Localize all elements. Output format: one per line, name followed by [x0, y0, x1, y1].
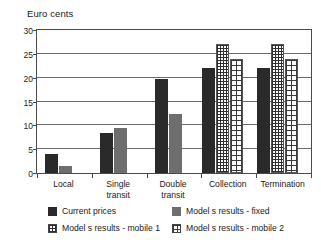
chart-legend: Current pricesModel s results - fixedMod…	[48, 206, 310, 240]
legend-swatch-current-icon	[48, 207, 57, 216]
x-tick-label-line: Collection	[200, 179, 255, 190]
y-tick-label: 15	[3, 99, 33, 107]
y-tick-label: 0	[3, 170, 33, 178]
x-tick-mark	[147, 174, 148, 178]
y-tick-label: 25	[3, 51, 33, 59]
legend-item-fixed[interactable]: Model s results - fixed	[172, 206, 270, 216]
bar-current[interactable]	[257, 68, 270, 173]
x-tick-mark	[256, 174, 257, 178]
x-tick-label-line: transit	[146, 190, 201, 201]
y-tick-label: 20	[3, 75, 33, 83]
x-tick-label-line: Single	[91, 179, 146, 190]
legend-label: Model s results - fixed	[186, 206, 270, 216]
y-axis: 051015202530	[0, 29, 33, 174]
x-tick-label: Local	[36, 179, 91, 190]
x-tick-label-line: Termination	[255, 179, 310, 190]
bars-layer	[37, 30, 311, 173]
legend-swatch-mobile1-icon	[48, 224, 57, 233]
x-tick-label-line: Local	[36, 179, 91, 190]
x-tick-mark	[37, 174, 38, 178]
legend-label: Model s results - mobile 1	[62, 223, 160, 233]
bar-chart: Euro cents 051015202530 LocalSingletrans…	[0, 0, 321, 246]
legend-label: Current prices	[62, 206, 116, 216]
legend-label: Model s results - mobile 2	[186, 223, 284, 233]
chart-axis-title: Euro cents	[27, 8, 73, 19]
x-tick-mark	[311, 174, 312, 178]
legend-swatch-fixed-icon	[172, 207, 181, 216]
x-tick-label: Collection	[200, 179, 255, 190]
x-tick-mark	[92, 174, 93, 178]
x-tick-mark	[201, 174, 202, 178]
x-axis: LocalSingletransitDoubletransitCollectio…	[36, 174, 312, 206]
legend-item-current[interactable]: Current prices	[48, 206, 116, 216]
x-tick-label: Termination	[255, 179, 310, 190]
bar-mobile2[interactable]	[285, 59, 298, 173]
x-tick-label-line: Double	[146, 179, 201, 190]
y-tick-label: 30	[3, 27, 33, 35]
y-tick-label: 10	[3, 122, 33, 130]
y-tick-label: 5	[3, 146, 33, 154]
bar-group	[37, 30, 311, 173]
legend-swatch-mobile2-icon	[172, 224, 181, 233]
legend-item-mobile1[interactable]: Model s results - mobile 1	[48, 223, 160, 233]
x-tick-label: Doubletransit	[146, 179, 201, 200]
x-tick-label-line: transit	[91, 190, 146, 201]
bar-mobile1[interactable]	[271, 44, 284, 173]
x-tick-label: Singletransit	[91, 179, 146, 200]
legend-item-mobile2[interactable]: Model s results - mobile 2	[172, 223, 284, 233]
